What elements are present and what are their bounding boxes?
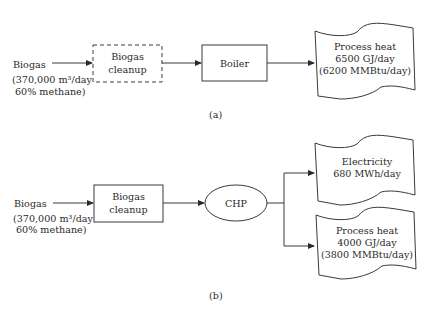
process-heat-mmbtu: (6200 MMBtu/day) [319, 65, 411, 76]
biogas-methane-content: 60% methane) [16, 224, 87, 235]
biogas-input-a: Biogas (370,000 m³/day 60% methane) [12, 59, 93, 97]
biogas-flow-rate: (370,000 m³/day [12, 74, 93, 85]
biogas-cleanup-box-b: Biogas cleanup [94, 185, 163, 222]
biogas-flow-diagram: Biogas (370,000 m³/day 60% methane) Biog… [0, 0, 433, 314]
process-heat-label: Process heat [336, 225, 398, 236]
process-heat-output-b: Process heat 4000 GJ/day (3800 MMBtu/day… [316, 207, 416, 279]
biogas-input-label: Biogas [14, 198, 47, 209]
process-heat-label: Process heat [334, 41, 396, 52]
caption-a: (a) [209, 109, 222, 120]
process-heat-gj: 4000 GJ/day [337, 237, 397, 248]
biogas-input-label: Biogas [13, 59, 46, 70]
cleanup-label-line1: Biogas [112, 191, 145, 202]
process-heat-output-a: Process heat 6500 GJ/day (6200 MMBtu/day… [315, 23, 415, 99]
boiler-box: Boiler [202, 45, 267, 81]
biogas-cleanup-box-a: Biogas cleanup [93, 45, 162, 82]
process-heat-gj: 6500 GJ/day [335, 53, 395, 64]
cleanup-label-line2: cleanup [108, 64, 146, 75]
process-heat-mmbtu: (3800 MMBtu/day) [321, 249, 413, 260]
electricity-mwh: 680 MWh/day [333, 168, 401, 179]
biogas-methane-content: 60% methane) [15, 86, 86, 97]
chp-node: CHP [205, 185, 267, 221]
diagram-b: Biogas (370,000 m³/day 60% methane) Biog… [13, 135, 416, 301]
cleanup-label-line2: cleanup [109, 204, 147, 215]
electricity-output: Electricity 680 MWh/day [315, 135, 415, 205]
boiler-label: Boiler [220, 58, 250, 69]
electricity-label: Electricity [342, 156, 393, 167]
chp-label: CHP [225, 198, 248, 209]
biogas-input-b: Biogas (370,000 m³/day 60% methane) [13, 198, 94, 235]
chp-branch-connector [267, 173, 314, 246]
diagram-a: Biogas (370,000 m³/day 60% methane) Biog… [12, 23, 415, 120]
caption-b: (b) [209, 290, 223, 301]
biogas-flow-rate: (370,000 m³/day [13, 213, 94, 224]
cleanup-label-line1: Biogas [111, 51, 144, 62]
